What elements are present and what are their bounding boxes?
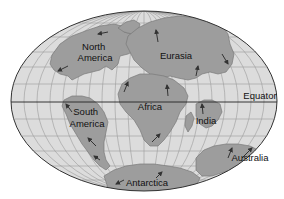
label-north-america: North America [78, 41, 114, 63]
label-eurasia: Eurasia [160, 50, 193, 61]
label-equator: Equator [243, 90, 276, 101]
label-antarctica: Antarctica [126, 177, 169, 188]
continental-drift-map: North America Eurasia Africa South Ameri… [0, 0, 284, 199]
label-africa: Africa [138, 101, 163, 112]
label-australia: Australia [232, 152, 270, 163]
label-india: India [196, 115, 217, 126]
label-south-america: South America [70, 106, 106, 129]
